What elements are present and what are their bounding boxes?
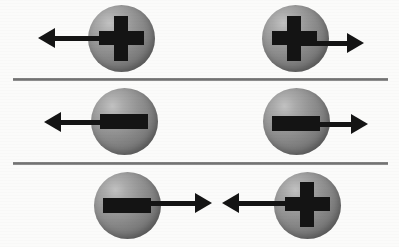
arrow-left-icon bbox=[38, 28, 108, 48]
minus-charge-icon bbox=[100, 114, 148, 129]
plus-bar-vertical bbox=[287, 16, 301, 61]
plus-charge-icon bbox=[285, 182, 330, 227]
divider-row-1-2 bbox=[13, 78, 388, 81]
arrow-right-icon bbox=[148, 193, 212, 213]
arrow-head bbox=[351, 114, 368, 134]
arrow-left-icon bbox=[222, 193, 288, 213]
arrow-shaft bbox=[237, 201, 288, 206]
divider-row-2-3 bbox=[13, 162, 388, 165]
minus-charge-icon bbox=[103, 198, 151, 213]
plus-charge-icon bbox=[99, 16, 144, 61]
plus-charge-icon bbox=[272, 16, 317, 61]
plus-bar-vertical bbox=[300, 182, 314, 227]
arrow-shaft bbox=[148, 201, 198, 206]
plus-bar-vertical bbox=[114, 16, 128, 61]
minus-bar-horizontal bbox=[100, 114, 148, 129]
minus-bar-horizontal bbox=[103, 198, 151, 213]
charge-diagram-figure bbox=[0, 0, 399, 247]
arrow-head bbox=[195, 193, 212, 213]
arrow-head bbox=[347, 33, 364, 53]
minus-bar-horizontal bbox=[272, 116, 320, 131]
minus-charge-icon bbox=[272, 116, 320, 131]
